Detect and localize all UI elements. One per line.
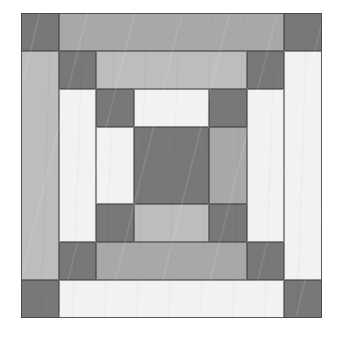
patch-corner-top-left-outer bbox=[21, 13, 59, 51]
patch-border-top-outer bbox=[59, 13, 285, 51]
patch-border-top-ring2 bbox=[96, 51, 247, 89]
patch-corner-top-right-ring2 bbox=[247, 51, 285, 89]
patch-corner-bottom-right-ring2 bbox=[247, 242, 285, 280]
patch-corner-top-right-ring3 bbox=[209, 89, 247, 127]
patch-corner-bottom-left-ring2 bbox=[59, 242, 97, 280]
patch-corner-top-left-ring3 bbox=[96, 89, 134, 127]
patch-border-bottom-ring2 bbox=[96, 242, 247, 280]
patch-border-right-ring2 bbox=[247, 89, 285, 242]
patch-corner-top-left-ring2 bbox=[59, 51, 97, 89]
patch-border-right-ring3 bbox=[209, 127, 247, 203]
patch-corner-bottom-left-outer bbox=[21, 280, 59, 318]
patch-corner-top-right-outer bbox=[284, 13, 322, 51]
patch-border-bottom-outer bbox=[59, 280, 285, 318]
quilt-block bbox=[21, 13, 322, 318]
patch-corner-bottom-right-outer bbox=[284, 280, 322, 318]
patch-border-bottom-ring3 bbox=[134, 204, 209, 242]
patch-border-top-ring3 bbox=[134, 89, 209, 127]
patch-border-left-outer bbox=[21, 51, 59, 280]
patch-border-left-ring3 bbox=[96, 127, 134, 203]
patch-center-square bbox=[134, 127, 209, 203]
quilt-canvas: Log Cabin Quilt Block bbox=[0, 0, 346, 341]
patch-border-right-outer bbox=[284, 51, 322, 280]
patch-border-left-ring2 bbox=[59, 89, 97, 242]
patch-corner-bottom-left-ring3 bbox=[96, 204, 134, 242]
patch-corner-bottom-right-ring3 bbox=[209, 204, 247, 242]
